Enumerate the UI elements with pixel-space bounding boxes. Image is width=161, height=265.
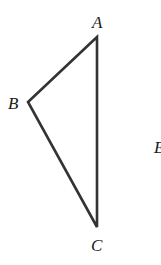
- diagram-canvas: A B C E: [0, 0, 161, 265]
- vertex-label-a: A: [91, 13, 103, 32]
- vertex-label-b: B: [8, 94, 19, 113]
- vertex-label-c: C: [91, 236, 103, 255]
- triangle-abc: [28, 37, 97, 227]
- vertex-label-e-partial: E: [153, 138, 161, 157]
